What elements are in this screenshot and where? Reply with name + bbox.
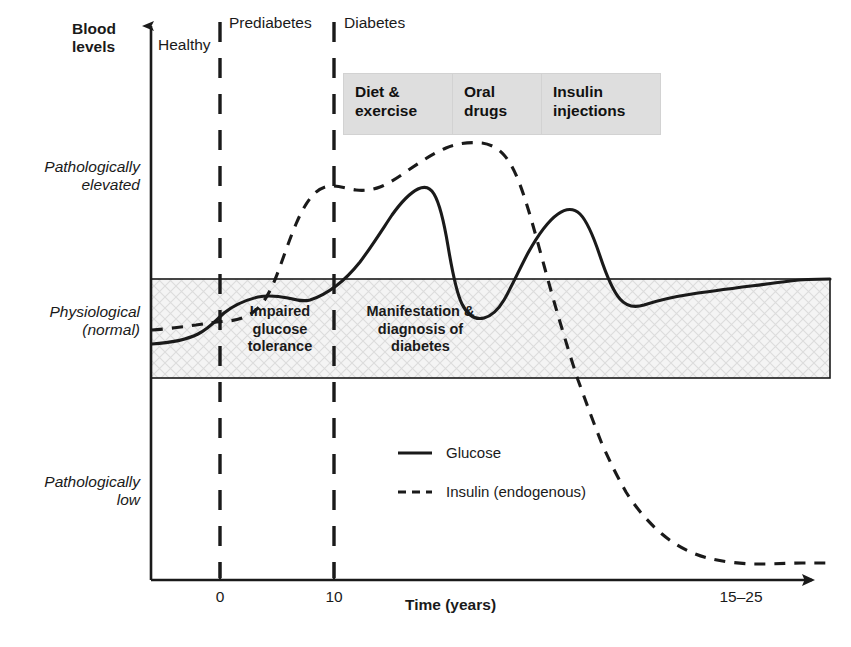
- phase-label-diabetes: Diabetes: [344, 14, 405, 32]
- annotation-impaired-glucose-tolerance: Impaired glucose tolerance: [230, 303, 330, 356]
- y-label-pathologically-low: Pathologically low: [0, 473, 140, 510]
- y-label-physiological-normal: Physiological (normal): [0, 303, 140, 340]
- x-tick-label-10: 10: [314, 588, 354, 606]
- phase-label-healthy: Healthy: [158, 36, 211, 54]
- x-tick-label-0: 0: [200, 588, 240, 606]
- treatment-box-insulin-injections[interactable]: Insulin injections: [541, 73, 661, 135]
- annotation-manifestation-diagnosis: Manifestation & diagnosis of diabetes: [343, 303, 498, 356]
- phase-label-prediabetes: Prediabetes: [229, 14, 312, 32]
- x-tick-label-15-25: 15–25: [706, 588, 776, 606]
- y-label-pathologically-elevated: Pathologically elevated: [0, 158, 140, 195]
- x-axis-title: Time (years): [405, 596, 496, 614]
- y-axis-title: Blood levels: [72, 20, 116, 57]
- treatment-box-oral-drugs[interactable]: Oral drugs: [452, 73, 547, 135]
- legend-label-insulin: Insulin (endogenous): [446, 483, 586, 501]
- legend-label-glucose: Glucose: [446, 444, 501, 462]
- blood-levels-diabetes-progression-chart: Blood levels Time (years) Pathologically…: [0, 0, 851, 647]
- treatment-box-diet-exercise[interactable]: Diet & exercise: [343, 73, 458, 135]
